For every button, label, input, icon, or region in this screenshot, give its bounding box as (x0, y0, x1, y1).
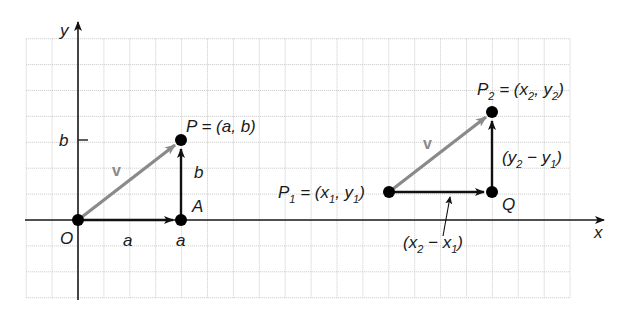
label-a-tick: a (176, 231, 185, 250)
point-P2 (486, 106, 498, 118)
point-Q (486, 186, 498, 198)
x-axis-label: x (593, 223, 603, 242)
label-b-component: b (194, 163, 203, 182)
point-P1 (383, 186, 395, 198)
label-P: P = (a, b) (186, 117, 256, 136)
point-A (175, 214, 187, 226)
y-axis-label: y (59, 21, 70, 40)
label-P1: P1 = (x1, y1) (278, 183, 365, 205)
label-y-difference: (y2 − y1) (502, 148, 562, 170)
vector-diagram: x y b v O a a A b P = (a, b) v Q P1 = (x… (0, 0, 623, 317)
leader-arrow (443, 197, 450, 236)
label-P2: P2 = (x2, y2) (477, 80, 564, 102)
label-a-component: a (123, 231, 132, 250)
grid (26, 39, 570, 298)
label-Q: Q (502, 195, 515, 214)
y-tick-label-b: b (59, 131, 68, 150)
label-x-difference: (x2 − x1) (403, 233, 463, 255)
vector-v-label-right: v (423, 135, 432, 152)
vector-v-right (389, 117, 486, 192)
point-O (72, 214, 84, 226)
label-O: O (60, 229, 73, 248)
vector-v-label-left: v (112, 162, 121, 179)
vector-v-left (78, 145, 175, 220)
label-A: A (191, 197, 203, 216)
